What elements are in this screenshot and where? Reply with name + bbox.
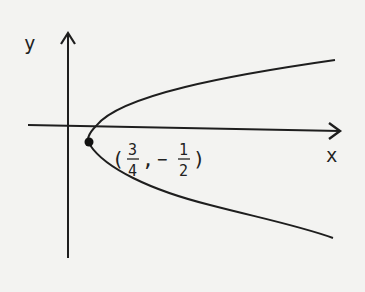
parabola-curve xyxy=(88,60,335,238)
vertex-label-open-paren: ( xyxy=(112,147,124,171)
vertex-point xyxy=(85,138,94,147)
vertex-y-numerator: 1 xyxy=(179,141,188,159)
vertex-y-denominator: 2 xyxy=(179,162,188,180)
y-axis-label: y xyxy=(24,32,35,54)
x-axis xyxy=(28,125,340,131)
vertex-label-close-paren: ) xyxy=(193,147,205,171)
parabola-diagram: y x ( 3 4 , − 1 2 ) xyxy=(0,0,365,292)
vertex-x-denominator: 4 xyxy=(128,162,137,180)
x-axis-label: x xyxy=(326,144,337,166)
vertex-x-numerator: 3 xyxy=(128,141,137,159)
vertex-label-comma: , xyxy=(142,147,154,171)
figure: y x ( 3 4 , − 1 2 ) xyxy=(0,0,365,292)
vertex-y-sign: − xyxy=(157,149,167,169)
